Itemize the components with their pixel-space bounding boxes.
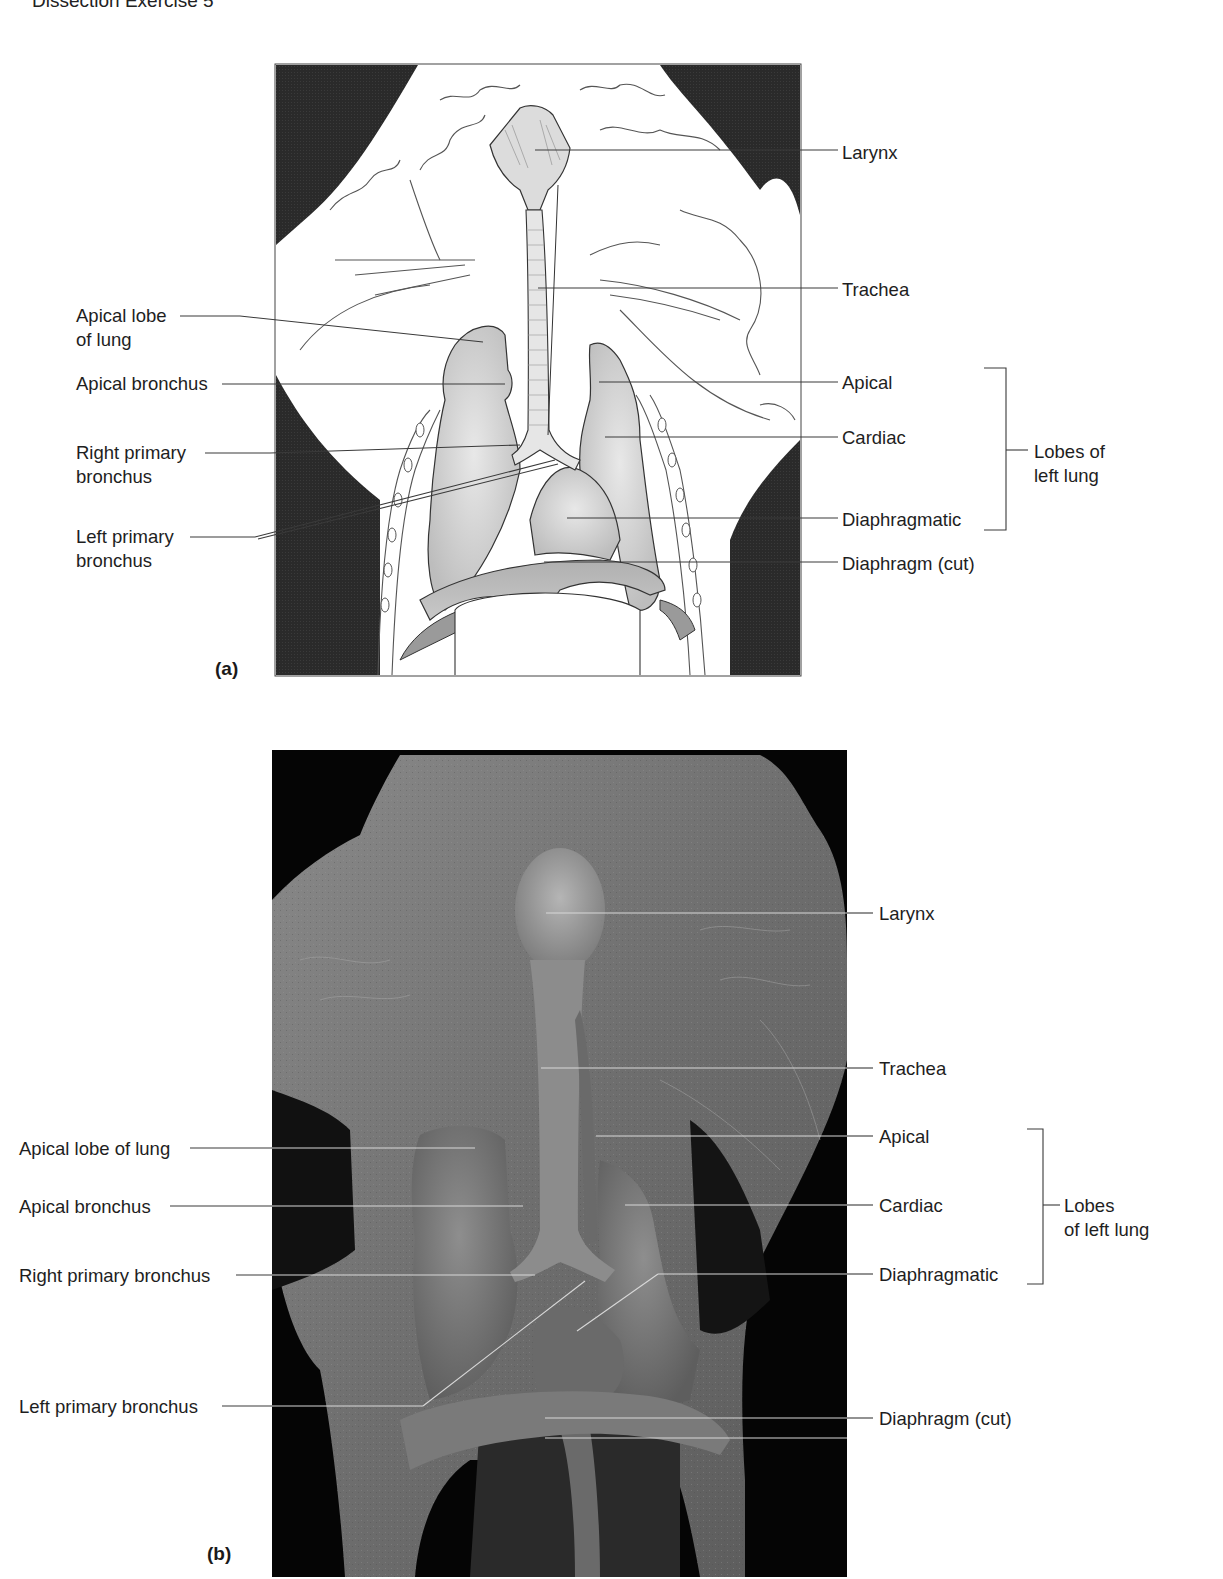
panel-b-letter: (b) (207, 1543, 231, 1565)
panel-b-label-lobes-of-left-lung: Lobes of left lung (1064, 1194, 1149, 1242)
panel-b-label-diaphragmatic: Diaphragmatic (879, 1263, 998, 1287)
panel-b-label-cardiac: Cardiac (879, 1194, 943, 1218)
panel-a-label-left-primary-line1: Left primary (76, 525, 174, 549)
panel-a-label-left-primary-bronchus: Left primary bronchus (76, 525, 174, 573)
panel-a-label-right-primary-line2: bronchus (76, 465, 186, 489)
panel-a-label-right-primary-bronchus: Right primary bronchus (76, 441, 186, 489)
panel-b-label-diaphragm-cut: Diaphragm (cut) (879, 1407, 1012, 1431)
panel-a-label-lobes-of-left-lung: Lobes of left lung (1034, 440, 1105, 488)
panel-a-label-diaphragmatic: Diaphragmatic (842, 508, 961, 532)
panel-a-label-diaphragm-cut: Diaphragm (cut) (842, 552, 975, 576)
panel-b-label-larynx: Larynx (879, 902, 935, 926)
panel-b-lobes-line2: of left lung (1064, 1218, 1149, 1242)
panel-a-label-larynx: Larynx (842, 141, 898, 165)
panel-a-label-apical-bronchus: Apical bronchus (76, 372, 208, 396)
panel-a-label-apical-lobe-line1: Apical lobe (76, 304, 167, 328)
panel-a-illustration (0, 0, 1223, 700)
panel-a-label-trachea: Trachea (842, 278, 909, 302)
panel-b-label-apical-lobe: Apical lobe of lung (19, 1137, 170, 1161)
panel-b-label-apical: Apical (879, 1125, 929, 1149)
panel-a-label-apical-lobe-line2: of lung (76, 328, 167, 352)
panel-a-label-right-primary-line1: Right primary (76, 441, 186, 465)
panel-b-label-apical-bronchus: Apical bronchus (19, 1195, 151, 1219)
panel-a-label-left-primary-line2: bronchus (76, 549, 174, 573)
panel-a-letter: (a) (215, 658, 238, 680)
panel-b-label-right-primary-bronchus: Right primary bronchus (19, 1264, 210, 1288)
panel-b-lobes-line1: Lobes (1064, 1194, 1149, 1218)
panel-b-label-left-primary-bronchus: Left primary bronchus (19, 1395, 198, 1419)
panel-a-lobes-line1: Lobes of (1034, 440, 1105, 464)
panel-a-label-apical: Apical (842, 371, 892, 395)
panel-a-lobes-line2: left lung (1034, 464, 1105, 488)
panel-a-label-cardiac: Cardiac (842, 426, 906, 450)
panel-a-label-apical-lobe: Apical lobe of lung (76, 304, 167, 352)
panel-b-label-trachea: Trachea (879, 1057, 946, 1081)
